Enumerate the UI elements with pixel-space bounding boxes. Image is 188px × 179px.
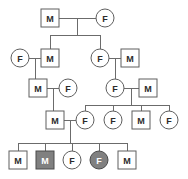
pedigree-chart: MFFMFMMFFMMFFMFMMFFM: [0, 0, 188, 179]
symbol-label: F: [82, 116, 88, 126]
pedigree-symbol-i-2[interactable]: F: [96, 9, 114, 27]
pedigree-symbol-v-1[interactable]: M: [9, 151, 27, 169]
pedigree-symbol-ii-4[interactable]: M: [121, 49, 139, 67]
pedigree-symbol-iv-3[interactable]: F: [104, 111, 122, 129]
symbol-label: F: [102, 14, 108, 24]
symbol-label: M: [46, 14, 54, 24]
symbol-label: F: [97, 54, 103, 64]
symbol-label: M: [51, 116, 59, 126]
symbol-label: M: [14, 156, 22, 166]
symbol-layer: MFFMFMMFFMMFFMFMMFFM: [9, 9, 178, 169]
symbol-label: F: [96, 156, 102, 166]
symbol-label: M: [41, 156, 49, 166]
symbol-label: F: [69, 156, 75, 166]
symbol-label: F: [65, 84, 71, 94]
pedigree-symbol-v-2[interactable]: M: [36, 151, 54, 169]
pedigree-symbol-iii-4[interactable]: M: [139, 79, 157, 97]
symbol-label: M: [144, 84, 152, 94]
pedigree-symbol-iii-3[interactable]: F: [106, 79, 124, 97]
pedigree-symbol-v-5[interactable]: M: [118, 151, 136, 169]
pedigree-symbol-iv-1[interactable]: M: [46, 111, 64, 129]
pedigree-symbol-ii-1[interactable]: F: [11, 49, 29, 67]
pedigree-symbol-iv-4[interactable]: M: [132, 111, 150, 129]
pedigree-symbol-i-1[interactable]: M: [41, 9, 59, 27]
pedigree-symbol-iii-2[interactable]: F: [59, 79, 77, 97]
symbol-label: F: [110, 116, 116, 126]
symbol-label: M: [126, 54, 134, 64]
symbol-label: M: [34, 84, 42, 94]
symbol-label: M: [137, 116, 145, 126]
pedigree-symbol-iv-5[interactable]: F: [160, 111, 178, 129]
pedigree-symbol-ii-2[interactable]: M: [41, 49, 59, 67]
symbol-label: M: [123, 156, 131, 166]
pedigree-symbol-ii-3[interactable]: F: [91, 49, 109, 67]
symbol-label: M: [46, 54, 54, 64]
pedigree-symbol-v-4[interactable]: F: [90, 151, 108, 169]
pedigree-canvas: MFFMFMMFFMMFFMFMMFFM: [0, 0, 188, 179]
symbol-label: F: [166, 116, 172, 126]
pedigree-symbol-iii-1[interactable]: M: [29, 79, 47, 97]
pedigree-symbol-iv-2[interactable]: F: [76, 111, 94, 129]
pedigree-symbol-v-3[interactable]: F: [63, 151, 81, 169]
symbol-label: F: [17, 54, 23, 64]
symbol-label: F: [112, 84, 118, 94]
